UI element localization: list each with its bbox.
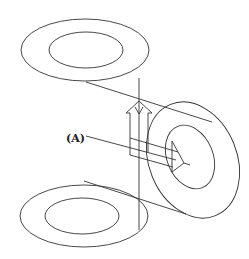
side-arrow-lower [130,155,173,167]
side-arrow-head [172,141,184,172]
top-annulus-outer [21,19,149,81]
label-a: (A) [66,132,85,145]
top-tangent-line [86,82,212,122]
side-arrow-tip-line [184,163,190,165]
bottom-annulus-outer [20,185,148,247]
bottom-annulus [20,185,148,247]
label-a-leader-line [86,136,176,160]
top-annulus-inner [49,32,123,68]
bottom-tangent-line [84,181,186,214]
top-annulus [21,19,149,81]
bottom-annulus-inner [45,198,119,234]
annulus-projection-diagram: (A) [0,0,249,259]
